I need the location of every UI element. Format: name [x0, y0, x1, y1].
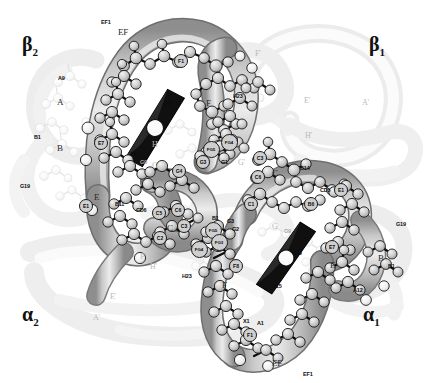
residue-label-g2: G2 — [232, 226, 239, 232]
residue-label-e: E — [330, 260, 335, 270]
residue-label-g: G — [272, 222, 278, 231]
residue-label-a: A — [57, 97, 63, 107]
residue-label-g19: G19 — [396, 221, 406, 227]
residue-chip-e7: E7 — [325, 240, 339, 254]
residue-label-h9: H9 — [131, 151, 138, 157]
residue-label-h: H' — [150, 262, 157, 271]
residue-label-h23: H23 — [233, 93, 243, 99]
subunit-beta1-index: 1 — [380, 46, 386, 58]
residue-label-x1: X1 — [243, 318, 249, 324]
residue-chip-c6: C6 — [171, 203, 185, 217]
residue-label-g19: G19 — [20, 183, 30, 189]
residue-label-cd6: CD6 — [136, 207, 146, 213]
residue-label-e: E' — [304, 96, 310, 105]
residue-chip-f8: F8 — [229, 259, 243, 273]
subunit-alpha1-index: 1 — [374, 316, 380, 328]
residue-label-f: F' — [255, 49, 261, 58]
residue-chip-c3: C3 — [177, 219, 191, 233]
residue-label-ef: EF — [118, 27, 128, 37]
residue-label-a: A' — [93, 313, 100, 322]
residue-label-f: F — [206, 98, 211, 108]
residue-label-h15: H15 — [272, 283, 282, 289]
residue-chip-c3: C3 — [253, 151, 267, 165]
residue-label-b11: B11 — [115, 201, 124, 207]
residue-label-b1: B1 — [212, 215, 219, 221]
residue-label-b14: B14 — [300, 165, 310, 171]
residue-label-b: B — [378, 253, 384, 263]
residue-label-g1: G1 — [221, 159, 228, 165]
residue-label-g9: G9 — [140, 159, 147, 165]
residue-label-e: E — [94, 192, 99, 202]
residue-label-c: C — [167, 223, 173, 233]
residue-label-b1: B1 — [34, 134, 41, 140]
residue-chip-c6: C6 — [251, 170, 265, 184]
residue-label-ef: EF — [272, 358, 282, 368]
residue-chip-fg4: FG4 — [191, 241, 208, 258]
residue-chip-e1: E1 — [334, 183, 348, 197]
subunit-beta1: β1 — [369, 33, 385, 58]
residue-label-f: F' — [140, 252, 146, 261]
residue-chip-fg4: FG4 — [221, 134, 238, 151]
residue-label-g: G — [152, 161, 158, 170]
residue-label-g3: G3 — [227, 218, 234, 224]
residue-label-c: C — [272, 168, 278, 178]
residue-chip-c2: C2 — [153, 231, 167, 245]
hemoglobin-structure-figure: F1E7FG4FG5C3C6G4G3E1E1C5C6C3C2C1B6FG5FG3… — [0, 0, 430, 383]
residue-label-f: F — [222, 280, 227, 290]
residue-label-a: A' — [362, 98, 369, 107]
subunit-beta2-index: 2 — [33, 46, 39, 58]
residue-label-a12: A12 — [353, 287, 363, 293]
residue-chip-b6: B6 — [304, 197, 318, 211]
residue-chip-e1: E1 — [79, 199, 93, 213]
subunit-alpha1-glyph: α — [363, 303, 374, 325]
residue-chip-f1: F1 — [243, 328, 257, 342]
residue-chip-e7: E7 — [94, 136, 108, 150]
residue-label-h: H — [152, 140, 158, 149]
residue-chip-g4: G4 — [172, 164, 186, 178]
residue-label-h: H' — [305, 131, 312, 140]
residue-label-h15: H15 — [163, 101, 173, 107]
residue-chip-c1: C1 — [244, 197, 258, 211]
residue-chip-fg3: FG3 — [211, 234, 228, 251]
backbone-beta2-ef-tail — [96, 252, 124, 296]
residue-label-ef1: EF1 — [101, 19, 111, 25]
subunit-beta1-glyph: β — [369, 33, 380, 55]
residue-label-e: E' — [110, 292, 116, 301]
residue-chip-c5: C5 — [152, 206, 166, 220]
residue-label-b1: B1 — [388, 263, 395, 269]
residue-chip-f1: F1 — [174, 54, 188, 68]
residue-label-cd5: CD5 — [320, 187, 330, 193]
residue-label-a1: A1 — [257, 320, 264, 326]
subunit-beta2: β2 — [22, 33, 38, 58]
subunit-alpha2-index: 2 — [33, 316, 39, 328]
subunit-alpha2-glyph: α — [22, 303, 33, 325]
residue-label-ef1: EF1 — [303, 371, 313, 377]
residue-label-h9: H9 — [295, 250, 302, 256]
residue-label-g: G' — [238, 158, 245, 167]
subunit-alpha1: α1 — [363, 303, 380, 328]
residue-label-h23: H23 — [182, 273, 192, 279]
residue-chip-g3: G3 — [196, 155, 210, 169]
residue-label-b: B — [57, 143, 63, 153]
residue-label-g9: G9 — [284, 228, 291, 234]
residue-label-a9: A9 — [58, 75, 65, 81]
subunit-alpha2: α2 — [22, 303, 39, 328]
subunit-beta2-glyph: β — [22, 33, 33, 55]
